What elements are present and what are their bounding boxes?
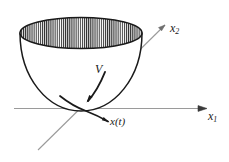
axis-label-x2: x2	[170, 22, 179, 36]
axis-label-x2-subscript: 2	[175, 27, 179, 36]
figure-canvas	[0, 0, 229, 162]
axis-x1	[14, 106, 207, 112]
trajectory-label: x(t)	[110, 116, 125, 127]
lyapunov-label: V	[95, 63, 102, 75]
lyapunov-paraboloid-figure: x2 x1 V x(t)	[0, 0, 229, 162]
axis-label-x1: x1	[208, 110, 217, 124]
axis-label-x1-subscript: 1	[213, 115, 217, 124]
